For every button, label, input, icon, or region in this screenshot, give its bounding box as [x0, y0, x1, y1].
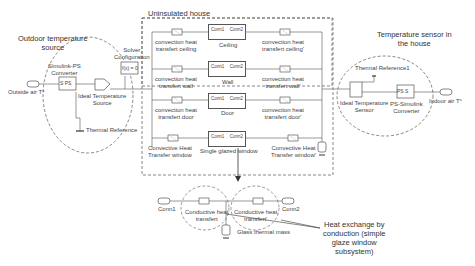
conductive-heat-left-label[interactable]: Conductive heat transfert	[185, 209, 228, 223]
ps-simulink-block[interactable]: PS S	[397, 88, 408, 95]
label-line: Converter	[48, 70, 81, 77]
label-line: Solver	[114, 47, 150, 54]
solver-configuration-block[interactable]: f(x) = 0	[122, 65, 138, 72]
annotation-line: source	[18, 43, 88, 52]
convection-ceiling-left[interactable]: convection heat transfert ceiling	[155, 39, 197, 53]
annotation-line: subsystem)	[323, 247, 386, 256]
label-line: convection heat	[262, 39, 304, 46]
solver-configuration-label: Solver Configuration	[114, 47, 150, 61]
annotation-line: Outdoor temperature	[18, 34, 88, 43]
annotation-line: glaze window	[323, 238, 386, 247]
ideal-temperature-sensor-label: Ideal Temperature Sensor	[340, 100, 388, 114]
annotation-line: Temperature sensor in	[377, 30, 452, 39]
door-label: Door	[221, 110, 234, 117]
conn1-port: Conn1	[211, 27, 224, 32]
subsystem-conn2-label: Conn2	[282, 206, 300, 213]
ps-simulink-label: PS-Simulink Converter	[390, 101, 423, 115]
label-line: convection heat	[155, 76, 197, 83]
convection-door-left[interactable]: convection heat transfert door	[155, 107, 197, 121]
wall-block[interactable]: Conn1 Conn2	[208, 61, 246, 77]
convection-wall-left[interactable]: convection heat transfert wall	[155, 76, 197, 90]
label-line: Transfer window'	[271, 152, 316, 159]
label-line: transfert ceiling'	[262, 46, 304, 53]
conn2-port: Conn2	[230, 64, 243, 69]
conn2-port: Conn2	[230, 134, 243, 139]
label-line: Simulink-PS	[48, 63, 81, 70]
label-line: convection heat	[155, 107, 197, 114]
conn1-port: Conn1	[211, 134, 224, 139]
label-line: Conductive heat	[185, 209, 228, 216]
label-line: Convective Heat	[148, 145, 192, 152]
label-line: PS-Simulink	[390, 101, 423, 108]
conductive-heat-right-label[interactable]: Conductive heat transfert'	[234, 209, 277, 223]
annotation-line: conduction (simple	[323, 229, 386, 238]
door-block[interactable]: Conn1 Conn2	[208, 93, 246, 109]
simulink-ps-label: Simulink-PS Converter	[48, 63, 81, 77]
simulink-ps-block[interactable]: S PS	[60, 80, 71, 87]
outdoor-source-annotation: Outdoor temperature source	[18, 34, 88, 52]
label-line: transfert door'	[262, 114, 304, 121]
label-line: Ideal Temperature	[340, 100, 388, 107]
label-line: convection heat	[262, 76, 304, 83]
sensor-annotation: Temperature sensor in the house	[377, 30, 452, 48]
convective-window-right[interactable]: Convective Heat Transfer window'	[271, 145, 316, 159]
label-line: Convective Heat	[271, 145, 316, 152]
outside-air-inport-label: Outside air T°	[8, 89, 45, 96]
conn2-port: Conn2	[230, 27, 243, 32]
label-line: transfert wall'	[262, 83, 304, 90]
annotation-line: Heat exchange by	[323, 220, 386, 229]
convective-window-left[interactable]: Convective Heat Transfer window	[148, 145, 192, 159]
label-line: transfert ceiling	[155, 46, 197, 53]
label-line: Sensor	[340, 107, 388, 114]
annotation-line: the house	[377, 39, 452, 48]
convection-door-right[interactable]: convection heat transfert door'	[262, 107, 304, 121]
label-line: convection heat	[155, 39, 197, 46]
wall-label: Wall	[222, 79, 233, 86]
thermal-reference1-label: Thermal Reference1	[355, 65, 410, 72]
indoor-air-outport-label: Indoor air T°	[429, 98, 462, 105]
label-line: transfert door	[155, 114, 197, 121]
label-line: transfert wall	[155, 83, 197, 90]
convection-wall-right[interactable]: convection heat transfert wall'	[262, 76, 304, 90]
single-glazed-window-block[interactable]: Conn1 Conn2	[208, 131, 246, 147]
label-line: Configuration	[114, 54, 150, 61]
label-line: transfert'	[234, 216, 277, 223]
single-glazed-window-label: Single glazed window	[200, 148, 258, 155]
ideal-temperature-source-label: Ideal Temperature Source	[78, 93, 126, 107]
conn2-port: Conn2	[230, 96, 243, 101]
label-line: transfert	[185, 216, 228, 223]
glass-thermal-mass-label: Glass thermal mass	[237, 229, 290, 236]
ceiling-block[interactable]: Conn1 Conn2	[208, 24, 246, 40]
label-line: Conductive heat	[234, 209, 277, 216]
subsystem-conn1-label: Conn1	[158, 206, 176, 213]
heat-exchange-annotation: Heat exchange by conduction (simple glaz…	[323, 220, 386, 256]
label-line: Source	[78, 100, 126, 107]
label-line: convection heat	[262, 107, 304, 114]
conn1-port: Conn1	[211, 64, 224, 69]
convection-ceiling-right[interactable]: convection heat transfert ceiling'	[262, 39, 304, 53]
house-annotation: Uninsulated house	[148, 9, 210, 18]
label-line: Ideal Temperature	[78, 93, 126, 100]
label-line: Transfer window	[148, 152, 192, 159]
thermal-reference-label: Thermal Reference	[86, 127, 137, 134]
label-line: Converter	[390, 108, 423, 115]
conn1-port: Conn1	[211, 96, 224, 101]
ceiling-label: Ceiling	[219, 42, 237, 49]
